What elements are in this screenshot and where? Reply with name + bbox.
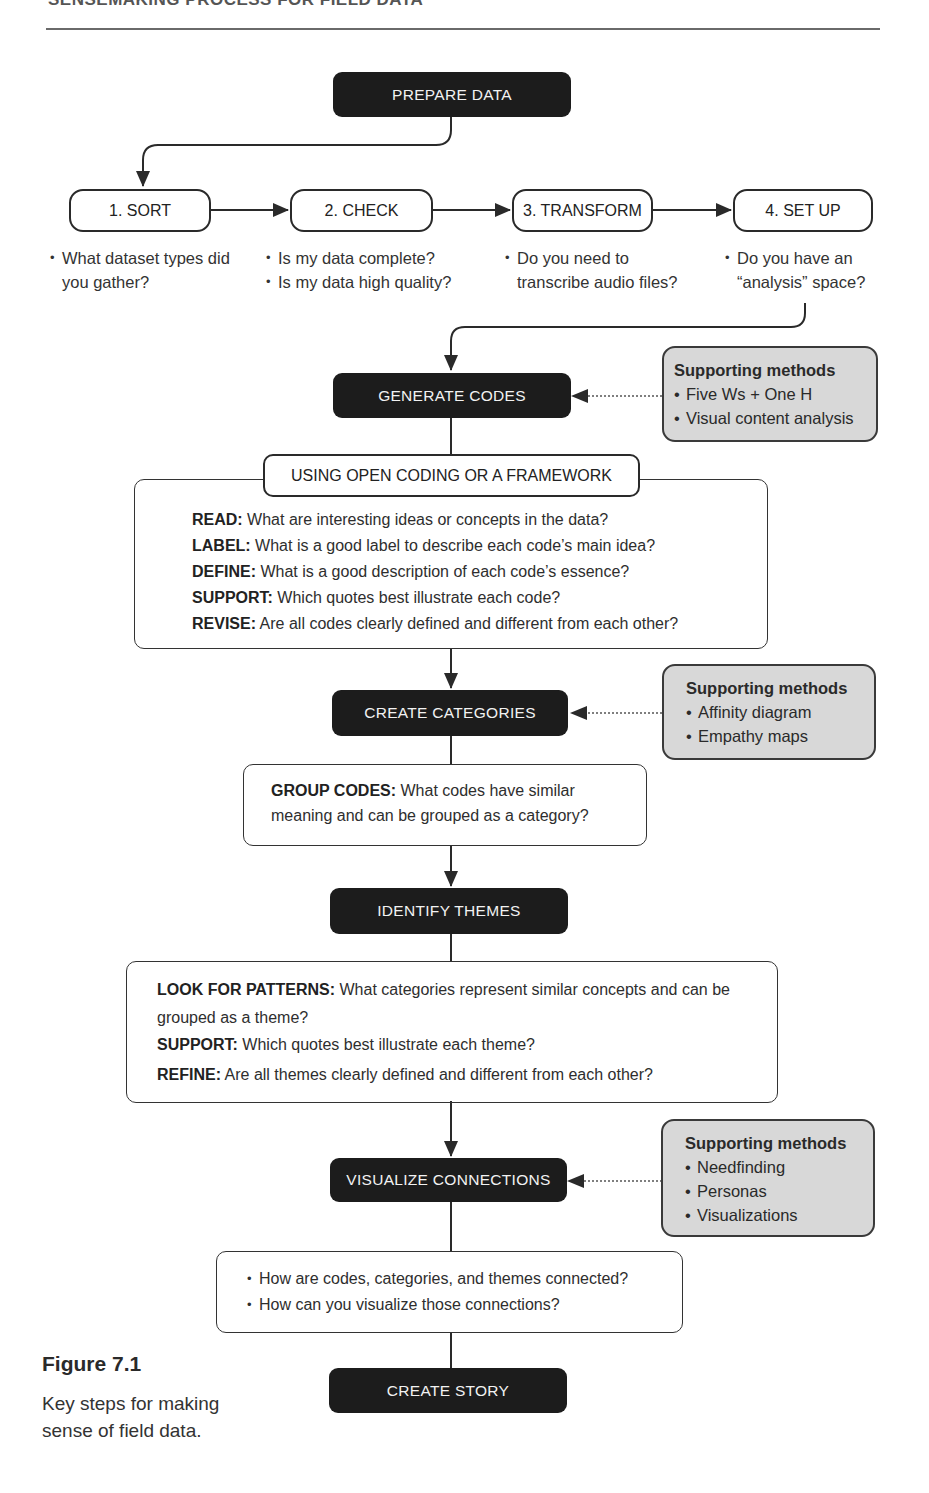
step-setup-node: 4. SET UP bbox=[733, 189, 873, 232]
question: What dataset types did you gather? bbox=[50, 246, 250, 294]
bracket-gap-right bbox=[677, 1270, 681, 1314]
create-story-node: CREATE STORY bbox=[329, 1368, 567, 1413]
figure-caption: Key steps for making sense of field data… bbox=[42, 1390, 262, 1444]
step-transform-questions: Do you need to transcribe audio files? bbox=[505, 246, 705, 294]
step-sort-node: 1. SORT bbox=[69, 189, 211, 232]
step-setup-questions: Do you have an “analysis” space? bbox=[725, 246, 885, 294]
question: How can you visualize those connections? bbox=[247, 1292, 677, 1318]
step-check-node: 2. CHECK bbox=[290, 189, 433, 232]
theme-step-support: SUPPORT: Which quotes best illustrate ea… bbox=[157, 1031, 757, 1059]
code-step-label: LABEL: What is a good label to describe … bbox=[192, 533, 752, 559]
supporting-methods-create-categories: Supporting methods Affinity diagram Empa… bbox=[662, 664, 876, 760]
question: Is my data complete? bbox=[266, 246, 486, 270]
bracket-gap-left bbox=[245, 782, 249, 826]
code-step-read: READ: What are interesting ideas or conc… bbox=[192, 507, 752, 533]
figure-number: Figure 7.1 bbox=[42, 1352, 141, 1376]
theme-step-refine: REFINE: Are all themes clearly defined a… bbox=[157, 1061, 757, 1089]
visualize-connections-node: VISUALIZE CONNECTIONS bbox=[330, 1158, 567, 1202]
identify-themes-node: IDENTIFY THEMES bbox=[330, 888, 568, 934]
supporting-methods-visualize-connections: Supporting methods Needfinding Personas … bbox=[661, 1119, 875, 1237]
create-categories-node: CREATE CATEGORIES bbox=[332, 690, 568, 736]
supporting-methods-generate-codes: Supporting methods Five Ws + One H Visua… bbox=[662, 346, 878, 442]
supporting-method: Visualizations bbox=[685, 1203, 863, 1227]
bracket-gap-left bbox=[128, 992, 132, 1070]
question: Do you have an “analysis” space? bbox=[725, 246, 885, 294]
supporting-method: Visual content analysis bbox=[674, 406, 866, 430]
code-step-define: DEFINE: What is a good description of ea… bbox=[192, 559, 752, 585]
bracket-gap-left bbox=[218, 1270, 222, 1314]
supporting-methods-title: Supporting methods bbox=[673, 1131, 863, 1155]
supporting-methods-title: Supporting methods bbox=[674, 676, 864, 700]
supporting-method: Empathy maps bbox=[686, 724, 864, 748]
generate-codes-steps: READ: What are interesting ideas or conc… bbox=[192, 507, 752, 637]
identify-themes-steps: LOOK FOR PATTERNS: What categories repre… bbox=[157, 976, 757, 1088]
question: Is my data high quality? bbox=[266, 270, 486, 294]
question: How are codes, categories, and themes co… bbox=[247, 1266, 677, 1292]
theme-step-look-for-patterns: LOOK FOR PATTERNS: What categories repre… bbox=[157, 976, 757, 1031]
open-coding-subheading: USING OPEN CODING OR A FRAMEWORK bbox=[263, 454, 640, 497]
question: Do you need to transcribe audio files? bbox=[505, 246, 705, 294]
prepare-data-node: PREPARE DATA bbox=[333, 72, 571, 117]
step-transform-node: 3. TRANSFORM bbox=[512, 189, 653, 232]
supporting-method: Five Ws + One H bbox=[674, 382, 866, 406]
supporting-method: Needfinding bbox=[685, 1155, 863, 1179]
supporting-methods-title: Supporting methods bbox=[674, 358, 866, 382]
bracket-gap-right bbox=[772, 992, 776, 1070]
group-codes-text: GROUP CODES: What codes have similar mea… bbox=[271, 778, 631, 828]
bracket-gap-left bbox=[136, 520, 140, 620]
supporting-method: Personas bbox=[685, 1179, 863, 1203]
code-step-support: SUPPORT: Which quotes best illustrate ea… bbox=[192, 585, 752, 611]
code-step-revise: REVISE: Are all codes clearly defined an… bbox=[192, 611, 752, 637]
supporting-method: Affinity diagram bbox=[686, 700, 864, 724]
bracket-gap-right bbox=[762, 520, 766, 620]
step-sort-questions: What dataset types did you gather? bbox=[50, 246, 250, 294]
step-check-questions: Is my data complete? Is my data high qua… bbox=[266, 246, 486, 294]
generate-codes-node: GENERATE CODES bbox=[333, 373, 571, 418]
connections-questions: How are codes, categories, and themes co… bbox=[247, 1266, 677, 1318]
bracket-gap-right bbox=[641, 782, 645, 826]
